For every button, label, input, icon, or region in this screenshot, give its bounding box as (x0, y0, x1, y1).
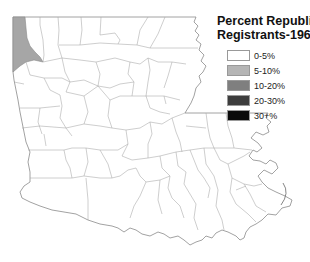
legend-item-10-20: 10-20% (227, 78, 310, 93)
legend-label: 5-10% (254, 66, 280, 76)
legend-title-line2: Registrants-1966 (217, 28, 310, 42)
legend-title-line1: Percent Republican (217, 14, 310, 28)
legend-swatch (227, 50, 250, 61)
parish-caddo (13, 17, 43, 72)
legend-item-5-10: 5-10% (227, 63, 310, 78)
legend-swatch (227, 95, 250, 106)
legend-item-30-plus: 30+% (227, 108, 310, 123)
legend: Percent Republican Registrants-1966 0-5%… (218, 14, 310, 123)
legend-swatch (227, 80, 250, 91)
legend-item-0-5: 0-5% (227, 48, 310, 63)
legend-swatch (227, 65, 250, 76)
legend-label: 10-20% (254, 81, 285, 91)
legend-label: 20-30% (254, 96, 285, 106)
legend-swatch (227, 110, 250, 121)
legend-label: 0-5% (254, 51, 275, 61)
legend-title: Percent Republican Registrants-1966 (217, 14, 310, 42)
legend-items: 0-5% 5-10% 10-20% 20-30% 30+% (227, 48, 310, 123)
legend-label: 30+% (254, 111, 277, 121)
coastal-arc (281, 183, 286, 205)
legend-item-20-30: 20-30% (227, 93, 310, 108)
